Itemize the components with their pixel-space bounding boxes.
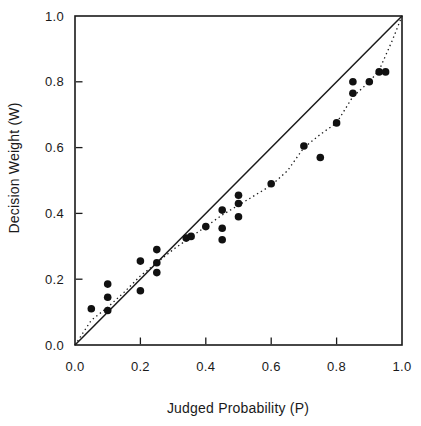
data-point [218, 236, 226, 244]
data-point [218, 206, 226, 214]
x-tick-label: 0.4 [196, 359, 215, 374]
y-tick-label: 0.2 [45, 272, 64, 287]
x-tick-label: 0.2 [131, 359, 150, 374]
data-point [317, 154, 325, 162]
data-point [104, 294, 112, 302]
x-axis-title: Judged Probability (P) [167, 400, 309, 416]
data-point [382, 68, 390, 76]
x-tick-label: 0.0 [66, 359, 85, 374]
y-tick-label: 0.0 [45, 338, 64, 353]
data-point [187, 233, 195, 241]
data-point [267, 180, 275, 188]
data-point [153, 259, 161, 267]
data-point [153, 246, 161, 254]
data-point [218, 224, 226, 232]
x-tick-label: 0.6 [262, 359, 281, 374]
data-point [88, 305, 96, 313]
data-point [300, 142, 308, 150]
data-point [235, 213, 243, 221]
data-point [349, 78, 357, 86]
data-point [153, 269, 161, 277]
data-point [137, 257, 145, 265]
data-point [235, 192, 243, 200]
y-tick-label: 1.0 [45, 9, 64, 24]
x-tick-label: 0.8 [327, 359, 346, 374]
data-point [137, 287, 145, 295]
scatter-plot: 0.00.20.40.60.81.00.00.20.40.60.81.0 Jud… [0, 0, 421, 426]
x-tick-label: 1.0 [393, 359, 412, 374]
identity-line [75, 16, 402, 345]
data-point [375, 68, 383, 76]
data-point [104, 280, 112, 288]
y-tick-label: 0.8 [45, 74, 64, 89]
data-point [202, 223, 210, 231]
data-point [235, 200, 243, 208]
data-points-group [88, 68, 390, 314]
y-axis-title: Decision Weight (W) [6, 102, 22, 233]
data-point [333, 119, 341, 127]
probability-weighting-figure: 0.00.20.40.60.81.00.00.20.40.60.81.0 Jud… [0, 0, 421, 426]
data-point [104, 307, 112, 315]
data-point [366, 78, 374, 86]
y-tick-label: 0.6 [45, 140, 64, 155]
y-tick-label: 0.4 [45, 206, 64, 221]
data-point [349, 90, 357, 98]
reference-lines [75, 16, 402, 345]
